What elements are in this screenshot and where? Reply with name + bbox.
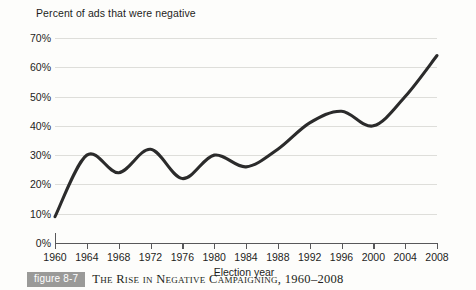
x-tick-label-1984: 1984 [234,251,257,263]
x-tick-label-1980: 1980 [202,251,225,263]
y-tick-label-40%: 40% [17,120,51,132]
y-tick-label-50%: 50% [17,91,51,103]
x-tick-label-1976: 1976 [171,251,194,263]
x-tick-1980 [214,243,215,249]
figure-caption-text: The Rise in Negative Campaigning, 1960–2… [92,272,343,287]
y-tick-label-60%: 60% [17,61,51,73]
y-tick-label-70%: 70% [17,32,51,44]
y-tick-label-20%: 20% [17,178,51,190]
y-tick-label-30%: 30% [17,149,51,161]
figure-number-badge: figure 8-7 [27,272,85,287]
x-tick-1960 [55,243,56,249]
x-tick-label-1996: 1996 [330,251,353,263]
y-tick-label-10%: 10% [17,208,51,220]
x-tick-label-1988: 1988 [266,251,289,263]
x-tick-label-2000: 2000 [362,251,385,263]
chart-title: Percent of ads that were negative [36,7,196,19]
x-tick-1988 [278,243,279,249]
x-tick-label-1968: 1968 [107,251,130,263]
x-tick-2008 [437,243,438,249]
x-tick-1968 [119,243,120,249]
y-tick-label-0%: 0% [17,237,51,249]
x-tick-2004 [405,243,406,249]
x-tick-label-2004: 2004 [393,251,416,263]
x-tick-1996 [342,243,343,249]
x-tick-1972 [151,243,152,249]
x-tick-1964 [87,243,88,249]
x-tick-label-1964: 1964 [75,251,98,263]
x-tick-1976 [182,243,183,249]
x-tick-label-2008: 2008 [425,251,448,263]
figure-caption: figure 8-7 The Rise in Negative Campaign… [27,272,344,287]
x-tick-1984 [246,243,247,249]
x-tick-label-1960: 1960 [43,251,66,263]
x-tick-2000 [373,243,374,249]
line-series-negative-ads [55,38,437,243]
x-tick-label-1972: 1972 [139,251,162,263]
x-tick-label-1992: 1992 [298,251,321,263]
figure-container: Percent of ads that were negative 0%10%2… [0,0,476,290]
y-axis-tick-labels: 0%10%20%30%40%50%60%70% [13,38,51,243]
x-tick-1992 [310,243,311,249]
